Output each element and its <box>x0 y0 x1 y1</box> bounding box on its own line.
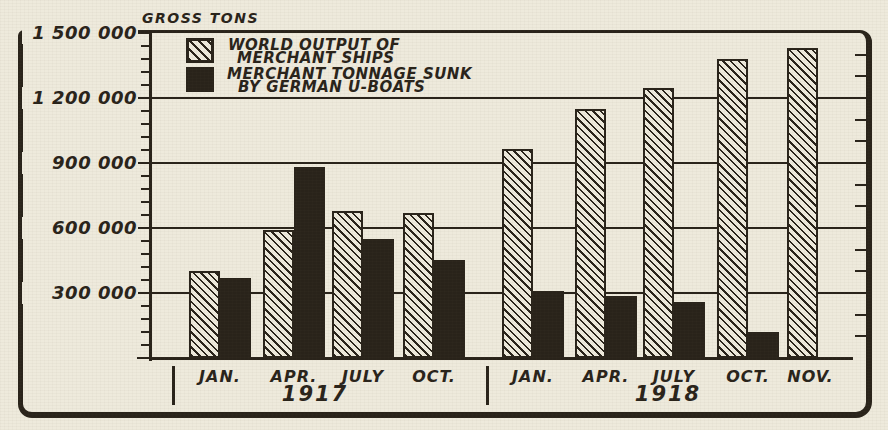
chart-page: GROSS TONS 1 500 0001 200 000900 000600 … <box>0 0 888 430</box>
legend-solid-swatch-icon <box>186 67 214 92</box>
legend: WORLD OUTPUT OF MERCHANT SHIPS MERCHANT … <box>0 0 888 430</box>
legend-sunk-label-line2: BY GERMAN U-BOATS <box>238 78 425 96</box>
legend-hatched-swatch-icon <box>186 38 214 63</box>
